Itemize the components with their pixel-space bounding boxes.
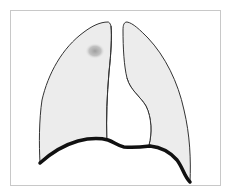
lung-diagram — [0, 0, 231, 194]
lung-diagram-svg — [0, 0, 231, 194]
nodule — [85, 43, 105, 59]
